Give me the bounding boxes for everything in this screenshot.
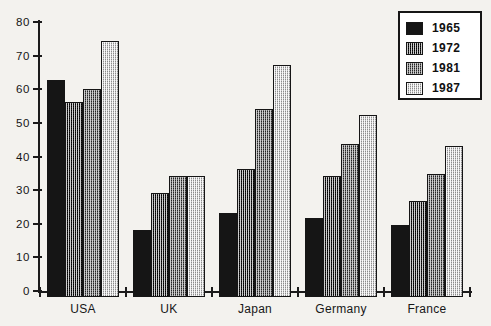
bar-japan-1981 (255, 109, 273, 297)
y-axis-tick-label: 70 (0, 50, 30, 62)
legend-item-label: 1987 (432, 82, 460, 95)
legend-item[interactable]: 1965 (400, 18, 480, 38)
bar-usa-1981 (83, 89, 101, 297)
bar-uk-1987 (187, 176, 205, 297)
bar-japan-1965 (219, 213, 237, 297)
y-axis-tick-label: 60 (0, 83, 30, 95)
legend-item-label: 1972 (432, 42, 460, 55)
bar-france-1987 (445, 146, 463, 297)
bar-usa-1972 (65, 102, 83, 297)
y-axis-tick-label: 0 (0, 285, 30, 297)
bar-uk-1965 (133, 230, 151, 297)
bar-france-1965 (391, 225, 409, 297)
bar-chart: 01020304050607080 USAUKJapanGermanyFranc… (0, 0, 491, 326)
bar-uk-1981 (169, 176, 187, 297)
x-axis-label-japan: Japan (238, 302, 272, 316)
bar-japan-1987 (273, 65, 291, 297)
x-axis-label-france: France (407, 302, 446, 316)
legend: 1965 1972 1981 1987 (398, 11, 482, 100)
x-axis-label-germany: Germany (315, 302, 366, 316)
y-axis-tick-label: 20 (0, 218, 30, 230)
bar-france-1972 (409, 201, 427, 297)
bar-france-1981 (427, 174, 445, 297)
legend-item[interactable]: 1987 (400, 78, 480, 98)
legend-item[interactable]: 1981 (400, 58, 480, 78)
bar-germany-1987 (359, 115, 377, 297)
x-axis-label-usa: USA (70, 302, 96, 316)
x-axis-label-uk: UK (160, 302, 177, 316)
y-axis-tick-label: 50 (0, 117, 30, 129)
y-axis-tick-label: 30 (0, 184, 30, 196)
solid-black-swatch-icon (406, 22, 423, 35)
legend-item[interactable]: 1972 (400, 38, 480, 58)
legend-item-label: 1965 (432, 22, 460, 35)
legend-item-label: 1981 (432, 62, 460, 75)
light-checker-swatch-icon (406, 82, 423, 95)
bar-uk-1972 (151, 193, 169, 297)
bar-japan-1972 (237, 169, 255, 297)
bar-germany-1981 (341, 144, 359, 297)
mid-checker-swatch-icon (406, 62, 423, 75)
bar-usa-1987 (101, 41, 119, 297)
y-axis-tick-label: 80 (0, 16, 30, 28)
bar-germany-1965 (305, 218, 323, 297)
dark-checker-swatch-icon (406, 42, 423, 55)
y-axis-tick-label: 40 (0, 151, 30, 163)
y-axis-tick-label: 10 (0, 251, 30, 263)
bar-usa-1965 (47, 80, 65, 297)
bar-germany-1972 (323, 176, 341, 297)
